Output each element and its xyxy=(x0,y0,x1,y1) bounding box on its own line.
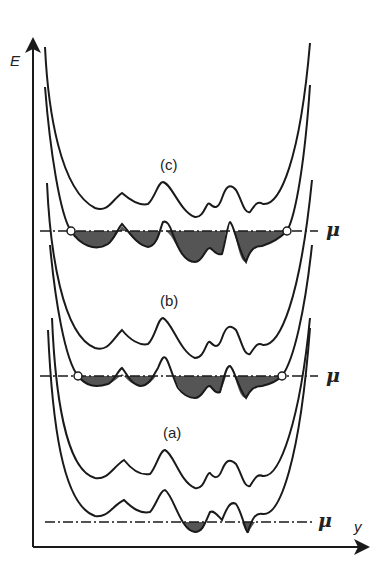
panel-a-label: (a) xyxy=(163,424,181,441)
panel-b xyxy=(40,180,318,398)
panel-b-lower-curve xyxy=(50,245,312,398)
panel-c-mu-label: μ xyxy=(326,218,340,240)
panel-b-filled-region xyxy=(78,374,282,398)
panel-c-left-contact xyxy=(67,227,75,235)
panel-a-mu-label: μ xyxy=(318,509,332,531)
panel-c-right-contact xyxy=(283,227,291,235)
position-axis-label: y xyxy=(354,518,362,535)
panel-c-upper-curve xyxy=(45,43,310,217)
panel-b-mu-label: μ xyxy=(326,364,340,386)
panel-c xyxy=(40,43,318,262)
panel-b-right-contact xyxy=(278,372,286,380)
panel-b-label: (b) xyxy=(160,292,178,309)
panel-b-upper-curve xyxy=(47,180,312,358)
energy-landscape-diagram xyxy=(0,0,382,574)
panel-b-left-contact xyxy=(74,372,82,380)
energy-axis-label: E xyxy=(10,52,20,69)
panel-c-label: (c) xyxy=(160,156,178,173)
